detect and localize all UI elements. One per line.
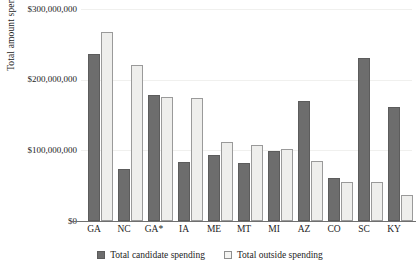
bar-outside-spending[interactable] <box>161 97 173 221</box>
bar-group <box>118 9 144 221</box>
bar-outside-spending[interactable] <box>101 32 113 221</box>
bar-group <box>328 9 354 221</box>
bar-candidate-spending[interactable] <box>178 162 190 221</box>
y-axis-tick-labels: $0$100,000,000$200,000,000$300,000,000 <box>24 0 77 273</box>
legend-label: Total outside spending <box>237 250 323 260</box>
bar-outside-spending[interactable] <box>401 195 413 221</box>
y-axis-tick-label: $100,000,000 <box>24 146 77 155</box>
bar-group <box>358 9 384 221</box>
bar-outside-spending[interactable] <box>191 98 203 221</box>
bar-outside-spending[interactable] <box>311 161 323 221</box>
bars-layer <box>81 9 412 221</box>
bar-outside-spending[interactable] <box>341 182 353 221</box>
bar-candidate-spending[interactable] <box>148 95 160 221</box>
bar-candidate-spending[interactable] <box>298 101 310 221</box>
bar-candidate-spending[interactable] <box>88 54 100 221</box>
y-axis-zero-tick <box>72 221 78 222</box>
bar-group <box>298 9 324 221</box>
bar-candidate-spending[interactable] <box>208 155 220 221</box>
bar-outside-spending[interactable] <box>251 145 263 221</box>
bar-candidate-spending[interactable] <box>388 107 400 221</box>
legend-entry[interactable]: Total candidate spending <box>97 250 205 260</box>
bar-candidate-spending[interactable] <box>358 58 370 221</box>
chart-legend: Total candidate spendingTotal outside sp… <box>0 250 420 260</box>
bar-group <box>268 9 294 221</box>
bar-group <box>238 9 264 221</box>
legend-entry[interactable]: Total outside spending <box>224 250 323 260</box>
bar-candidate-spending[interactable] <box>328 178 340 221</box>
y-axis-title: Total amount spent <box>6 0 22 71</box>
x-axis-tick-labels: GANCGA*IAMEMTMIAZCOSCKY <box>81 224 412 240</box>
bar-candidate-spending[interactable] <box>268 151 280 221</box>
bar-candidate-spending[interactable] <box>238 163 250 221</box>
legend-swatch-outside-icon <box>224 251 232 259</box>
y-axis-tick-label: $300,000,000 <box>24 5 77 14</box>
bar-chart-figure: Total amount spent $0$100,000,000$200,00… <box>0 0 420 273</box>
legend-swatch-candidate-icon <box>97 251 105 259</box>
bar-group <box>178 9 204 221</box>
bar-outside-spending[interactable] <box>221 142 233 221</box>
legend-label: Total candidate spending <box>110 250 205 260</box>
bar-candidate-spending[interactable] <box>118 169 130 221</box>
x-axis-line <box>77 221 416 222</box>
bar-group <box>388 9 414 221</box>
x-axis-tick-label: KY <box>374 224 414 234</box>
bar-group <box>88 9 114 221</box>
bar-group <box>208 9 234 221</box>
y-axis-tick-label: $200,000,000 <box>24 75 77 84</box>
bar-group <box>148 9 174 221</box>
bar-outside-spending[interactable] <box>131 65 143 221</box>
y-axis-tick-label: $0 <box>24 217 77 226</box>
bar-outside-spending[interactable] <box>371 182 383 221</box>
bar-outside-spending[interactable] <box>281 149 293 221</box>
